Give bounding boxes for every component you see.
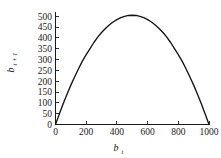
y-tick-label: 250 — [38, 66, 53, 76]
x-tick-label: 400 — [110, 127, 125, 137]
y-tick-label: 350 — [38, 44, 53, 54]
y-tick-label: 0 — [47, 120, 52, 130]
y-tick-label: 450 — [38, 22, 53, 32]
x-tick-label: 800 — [171, 127, 186, 137]
parabola-plot: 050100150200250300350400450500 020040060… — [0, 0, 221, 158]
y-tick-label: 50 — [43, 109, 53, 119]
y-tick-label: 100 — [38, 98, 53, 108]
y-axis-title-text: b — [5, 68, 16, 73]
x-tick-label: 200 — [79, 127, 94, 137]
chart-figure: 050100150200250300350400450500 020040060… — [0, 0, 221, 158]
y-tick-label: 500 — [38, 12, 53, 22]
x-tick-label: 0 — [53, 127, 58, 137]
y-tick-label: 300 — [38, 55, 53, 65]
y-axis-title-subscript: t + 1 — [11, 53, 18, 66]
y-tick-label: 400 — [38, 33, 53, 43]
x-tick-label: 1000 — [200, 127, 219, 137]
y-tick-label: 150 — [38, 87, 53, 97]
x-tick-label: 600 — [140, 127, 155, 137]
x-axis-title-subscript: t — [122, 148, 124, 155]
y-tick-label: 200 — [38, 77, 53, 87]
x-axis-title-text: b — [114, 142, 119, 153]
